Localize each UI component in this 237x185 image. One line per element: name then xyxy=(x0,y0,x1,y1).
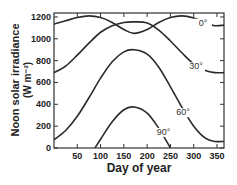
axis-ticks: 5010015020025030035002004006008001000120… xyxy=(31,12,225,161)
curves xyxy=(54,16,224,148)
x-tick-label: 200 xyxy=(140,151,155,161)
x-tick-label: 100 xyxy=(93,151,108,161)
y-axis-units: (W m⁻²) xyxy=(22,62,33,98)
curve-label: 90° xyxy=(157,127,171,137)
y-tick-label: 1000 xyxy=(31,34,51,44)
y-tick-label: 0 xyxy=(46,143,51,153)
x-tick-label: 150 xyxy=(116,151,131,161)
x-tick-label: 300 xyxy=(186,151,201,161)
x-axis-title: Day of year xyxy=(107,161,172,175)
y-tick-label: 800 xyxy=(36,56,51,66)
y-tick-label: 400 xyxy=(36,99,51,109)
x-tick-label: 50 xyxy=(72,151,82,161)
irradiance-chart: 5010015020025030035002004006008001000120… xyxy=(0,0,237,185)
x-tick-label: 250 xyxy=(163,151,178,161)
y-tick-label: 200 xyxy=(36,121,51,131)
y-axis-title: Noon solar irradiance xyxy=(9,23,21,136)
curve-labels: 0°30°60°90° xyxy=(154,18,212,137)
curve-label: 60° xyxy=(176,107,190,117)
x-tick-label: 350 xyxy=(209,151,224,161)
y-tick-label: 600 xyxy=(36,77,51,87)
curve-label: 30° xyxy=(189,61,203,71)
curve-label: 0° xyxy=(199,18,208,28)
y-tick-label: 1200 xyxy=(31,12,51,22)
